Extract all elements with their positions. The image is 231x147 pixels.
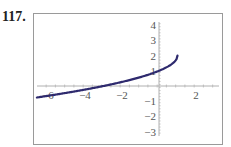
x-tick-label: −2: [116, 89, 128, 101]
y-tick-label: 4: [151, 19, 157, 31]
axis-ticks: [46, 24, 213, 133]
axes: [37, 22, 219, 136]
y-tick-label: 2: [151, 50, 157, 62]
function-curve: [37, 56, 178, 98]
y-tick-label: −3: [144, 126, 156, 138]
y-tick-label: 1: [151, 65, 157, 77]
y-tick-label: −2: [144, 110, 156, 122]
y-tick-label: −1: [144, 95, 156, 107]
function-plot: −6−4−224321−1−2−3: [0, 0, 231, 147]
y-tick-label: 3: [151, 34, 157, 46]
tick-labels: −6−4−224321−1−2−3: [42, 19, 199, 137]
x-tick-label: 2: [193, 89, 199, 101]
